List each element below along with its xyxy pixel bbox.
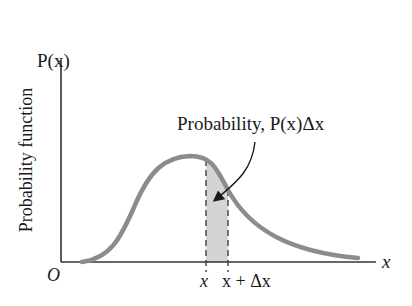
x-axis-symbol: x <box>382 251 390 273</box>
probability-density-diagram: P(x) Probability function O x x x + Δx P… <box>0 0 412 306</box>
y-axis-title: Probability function <box>16 88 37 232</box>
diagram-graphics <box>0 0 412 306</box>
probability-annotation: Probability, P(x)Δx <box>177 113 324 135</box>
origin-label: O <box>47 265 60 286</box>
y-axis-symbol: P(x) <box>37 50 70 72</box>
tick-label-x: x <box>200 271 208 292</box>
tick-label-x-plus-dx: x + Δx <box>222 271 271 292</box>
